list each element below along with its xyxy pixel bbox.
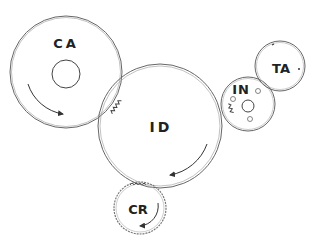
gear-label-cr: CR [128, 202, 148, 217]
gear-ca: CA [10, 16, 122, 128]
gear-ta: TA [255, 41, 305, 91]
gear-train-diagram: CA ID IN TA CR [0, 0, 321, 238]
gear-label-in: IN [232, 82, 250, 97]
hub-icon [52, 60, 80, 88]
gear-label-ta: TA [272, 61, 290, 76]
gear-cr: CR [114, 182, 166, 234]
gear-id: ID [98, 64, 234, 188]
gear-label-id: ID [150, 119, 173, 135]
rotation-arrow-icon [170, 144, 207, 175]
hub-icon [242, 100, 254, 112]
gear-label-ca: CA [53, 36, 79, 51]
rotation-arrow-icon [28, 84, 63, 114]
